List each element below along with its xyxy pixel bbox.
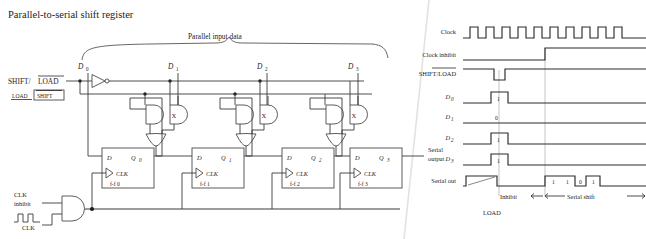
clock-inhibit-label-line2: inhibit bbox=[14, 200, 31, 207]
flipflop-3-d-label: D bbox=[354, 154, 360, 161]
data-input-label-1: D bbox=[167, 62, 174, 71]
serial-bit-1: 1 bbox=[566, 179, 569, 185]
annotation-load: LOAD bbox=[483, 209, 501, 216]
flipflop-3-name: f-f 3 bbox=[358, 181, 368, 187]
canvas-background bbox=[0, 0, 646, 239]
flipflop-0-q-label: Q bbox=[131, 154, 136, 161]
parallel-input-label: Parallel input data bbox=[188, 32, 242, 41]
serial-output-label-line2: output bbox=[428, 155, 445, 162]
data-input-label-2: D bbox=[256, 62, 263, 71]
data-input-label-0: D bbox=[77, 62, 84, 71]
timing-label-clock-inhibit: Clock inhibit bbox=[422, 51, 456, 58]
flipflop-1-d-label: D bbox=[196, 154, 202, 161]
flipflop-2-clk-label: CLK bbox=[296, 170, 309, 177]
flipflop-1-q-label: Q bbox=[221, 154, 226, 161]
flipflop-0-d-label: D bbox=[106, 154, 112, 161]
data-input-label-3: D bbox=[347, 62, 354, 71]
flipflop-3-q-label: Q bbox=[379, 154, 384, 161]
x-gate-marker-2: X bbox=[262, 112, 267, 119]
clock-and-gate bbox=[62, 196, 85, 221]
flipflop-2-q-label: Q bbox=[311, 154, 316, 161]
timing-value-d3: 1 bbox=[497, 158, 500, 164]
clock-input-label: CLK bbox=[22, 224, 35, 231]
flipflop-0-clk-label: CLK bbox=[116, 170, 129, 177]
timing-label-serial-out: Serial out bbox=[431, 177, 456, 184]
flipflop-1-q-sub: 1 bbox=[229, 157, 232, 163]
flipflop-1-clk-label: CLK bbox=[206, 170, 219, 177]
timing-sub-d1: 1 bbox=[451, 116, 454, 122]
serial-output-label-line1: Serial bbox=[428, 146, 443, 153]
annotation-inhibit: Inhibit bbox=[500, 193, 517, 200]
timing-label-d3: D bbox=[444, 155, 450, 162]
timing-value-d0: 1 bbox=[497, 96, 500, 102]
timing-label-d1: D bbox=[444, 113, 450, 120]
inverter-bubble bbox=[105, 79, 109, 83]
shift-load-label-shift: SHIFT/ bbox=[8, 77, 32, 86]
flipflop-2-name: f-f 2 bbox=[290, 181, 300, 187]
figure-title: Parallel-to-serial shift register bbox=[8, 9, 134, 20]
serial-bit-3: 1 bbox=[592, 179, 595, 185]
timing-value-d1: 0 bbox=[495, 115, 498, 121]
and-gate-2 bbox=[236, 105, 254, 124]
flipflop-1-name: f-f 1 bbox=[200, 181, 210, 187]
flipflop-0-name: f-f 0 bbox=[110, 181, 120, 187]
x-gate-marker-3: X bbox=[352, 112, 357, 119]
serial-bit-0: 1 bbox=[552, 179, 555, 185]
flipflop-2-d-label: D bbox=[286, 154, 292, 161]
and-gate-3 bbox=[326, 105, 344, 124]
and-gate-1 bbox=[146, 105, 164, 124]
serial-bit-2: 0 bbox=[579, 179, 582, 185]
clock-bus-dot-0 bbox=[90, 207, 94, 211]
timing-label-clock: Clock bbox=[441, 28, 457, 35]
x-gate-marker-1: X bbox=[172, 112, 177, 119]
timing-value-d2: 1 bbox=[497, 137, 500, 143]
load-indicator-label: LOAD bbox=[12, 93, 28, 99]
shift-indicator-label: SHIFT bbox=[37, 93, 53, 99]
timing-label-d2: D bbox=[444, 134, 450, 141]
timing-label-d0: D bbox=[444, 93, 450, 100]
shift-load-label-load: LOAD bbox=[38, 77, 59, 86]
timing-label-shift-load: SHIFT/LOAD bbox=[419, 70, 457, 77]
figure-root: Parallel-to-serial shift register Parall… bbox=[0, 0, 646, 239]
annotation-serial-shift: Serial shift bbox=[567, 193, 595, 200]
clock-inhibit-label-line1: CLK bbox=[14, 191, 27, 198]
flipflop-3-clk-label: CLK bbox=[364, 170, 377, 177]
